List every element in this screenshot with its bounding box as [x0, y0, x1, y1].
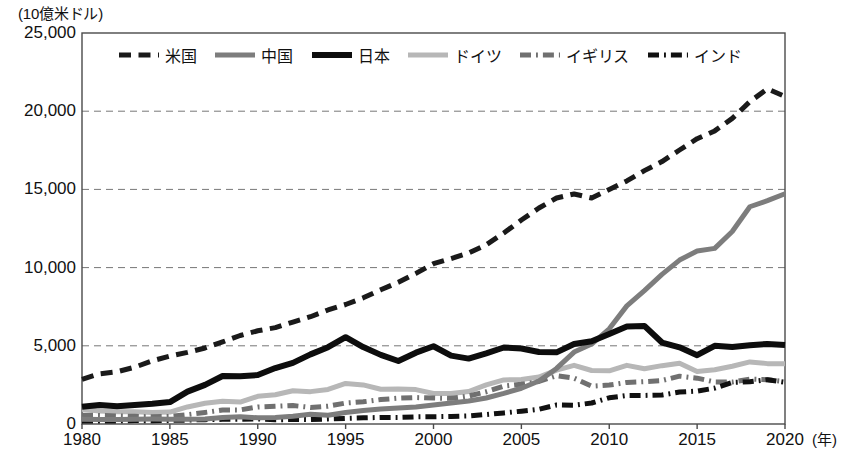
- x-tick-label: 2010: [590, 430, 628, 450]
- legend-swatch-solid-lightgray-icon: [407, 48, 449, 62]
- legend-swatch-solid-black-icon: [311, 48, 353, 62]
- legend-item-中国[interactable]: 中国: [214, 44, 292, 66]
- x-axis-ticks: [82, 424, 785, 429]
- x-tick-label: 2000: [415, 430, 453, 450]
- x-tick-label: 1980: [63, 430, 101, 450]
- plot-area: [0, 0, 864, 462]
- legend-label: 日本: [358, 43, 389, 67]
- legend-item-インド[interactable]: インド: [647, 44, 741, 66]
- legend-swatch-dashdot-black-icon: [647, 48, 689, 62]
- legend-swatch-dashed-black-icon: [118, 48, 160, 62]
- legend-swatch-solid-gray-icon: [214, 48, 256, 62]
- legend-label: イギリス: [566, 43, 629, 67]
- x-tick-label: 2005: [502, 430, 540, 450]
- legend-label: 中国: [261, 43, 292, 67]
- x-tick-label: 2015: [678, 430, 716, 450]
- legend-item-イギリス[interactable]: イギリス: [519, 44, 629, 66]
- x-axis-unit-label: (年): [812, 428, 837, 449]
- series-line-中国: [82, 194, 785, 420]
- x-tick-label: 1985: [151, 430, 189, 450]
- x-tick-label: 1995: [327, 430, 365, 450]
- data-series-group: [82, 89, 785, 421]
- x-tick-label: 2020: [766, 430, 804, 450]
- gridlines: [82, 111, 785, 346]
- gdp-line-chart: (10億米ドル) 05,00010,00015,00020,00025,000 …: [0, 0, 864, 462]
- legend-item-ドイツ[interactable]: ドイツ: [407, 44, 501, 66]
- legend-swatch-dashdot-gray-icon: [519, 48, 561, 62]
- series-line-米国: [82, 89, 785, 379]
- chart-legend: 米国中国日本ドイツイギリスインド: [118, 44, 741, 66]
- legend-label: インド: [694, 43, 741, 67]
- legend-label: ドイツ: [454, 43, 501, 67]
- x-tick-label: 1990: [239, 430, 277, 450]
- legend-item-米国[interactable]: 米国: [118, 44, 196, 66]
- legend-label: 米国: [165, 43, 196, 67]
- legend-item-日本[interactable]: 日本: [311, 44, 389, 66]
- series-line-イギリス: [82, 376, 785, 417]
